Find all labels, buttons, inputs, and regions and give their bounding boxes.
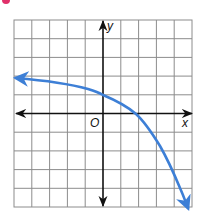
coordinate-plane: y x O <box>0 0 201 219</box>
origin-label: O <box>90 116 99 130</box>
y-axis-label: y <box>106 19 114 33</box>
x-axis-label: x <box>181 116 189 130</box>
